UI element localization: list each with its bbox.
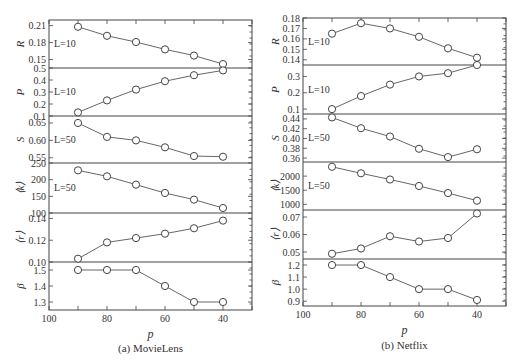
- y-tick-label: 1000: [280, 199, 300, 210]
- data-point: [444, 286, 451, 293]
- panel-4: 0.140.120.10⟨r⟩: [14, 213, 252, 268]
- y-tick-label: 0.05: [283, 247, 301, 258]
- y-tick-label: 2000: [280, 171, 300, 182]
- panel-annotation: L=10: [54, 86, 76, 97]
- data-point: [132, 234, 139, 241]
- data-point: [161, 230, 168, 237]
- data-point: [74, 109, 81, 116]
- data-point: [415, 182, 422, 189]
- data-point: [328, 250, 335, 257]
- data-point: [132, 38, 139, 45]
- data-point: [219, 67, 226, 74]
- y-tick-label: 0.65: [29, 117, 47, 128]
- panel-2: 0.650.600.55SL=50: [14, 117, 252, 163]
- y-tick-label: 0.18: [283, 13, 301, 24]
- y-tick-label: 0.12: [29, 235, 47, 246]
- data-point: [386, 176, 393, 183]
- panel-5: 1.21.11.00.9β: [269, 260, 506, 307]
- data-point: [103, 266, 110, 273]
- subplot-movielens: 100806040p(a) MovieLens0.210.180.15RL=10…: [14, 20, 252, 355]
- data-point: [161, 282, 168, 289]
- y-axis-label: β: [14, 283, 26, 290]
- x-tick-label: 80: [356, 309, 366, 320]
- data-point: [219, 204, 226, 211]
- y-axis-label: R: [269, 38, 281, 46]
- data-point: [444, 70, 451, 77]
- data-point: [357, 125, 364, 132]
- panel-annotation: L=50: [54, 134, 76, 145]
- data-point: [328, 106, 335, 113]
- y-tick-label: 0.16: [283, 33, 301, 44]
- y-axis-label: R: [14, 40, 26, 48]
- data-point: [328, 30, 335, 37]
- series-line: [78, 123, 223, 157]
- panel-5: 1.51.41.3β: [14, 265, 252, 308]
- series-line: [78, 221, 223, 259]
- y-axis-label: ⟨k⟩: [14, 181, 26, 195]
- data-point: [190, 225, 197, 232]
- data-point: [357, 170, 364, 177]
- y-axis-label: P: [269, 86, 281, 94]
- y-tick-label: 0.14: [283, 54, 301, 65]
- y-tick-label: 0.60: [29, 135, 47, 146]
- panel-0: 0.210.180.15RL=10: [14, 20, 252, 68]
- data-point: [190, 52, 197, 59]
- data-point: [444, 234, 451, 241]
- y-tick-label: 1.5: [34, 265, 47, 276]
- x-tick-label: 60: [414, 309, 424, 320]
- series-line: [332, 117, 477, 157]
- series-line: [78, 270, 223, 302]
- y-tick-label: 1.2: [288, 260, 301, 271]
- data-point: [190, 298, 197, 305]
- panel-2: 0.440.420.400.380.36SL=50: [269, 113, 506, 163]
- y-tick-label: 1.4: [34, 281, 47, 292]
- panel-4: 0.070.060.05⟨r⟩: [269, 210, 506, 258]
- data-point: [132, 266, 139, 273]
- y-tick-label: 0.07: [283, 212, 301, 223]
- data-point: [103, 173, 110, 180]
- panel-3: 250200150100⟨k⟩L=50: [14, 158, 252, 219]
- panel-1: 0.30.20.1PL=10: [269, 61, 506, 114]
- subplot-netflix: 100806040p(b) Netflix0.180.170.160.150.1…: [269, 13, 506, 353]
- data-point: [357, 245, 364, 252]
- data-point: [415, 145, 422, 152]
- panel-1: 0.50.40.30.20.1PL=10: [14, 63, 252, 122]
- y-tick-label: 1.3: [34, 297, 47, 308]
- data-point: [473, 54, 480, 61]
- y-tick-label: 0.2: [34, 99, 47, 110]
- panel-annotation: L=50: [308, 180, 330, 191]
- x-tick-label: 100: [42, 313, 57, 324]
- data-point: [219, 153, 226, 160]
- chart-figure: 100806040p(a) MovieLens0.210.180.15RL=10…: [0, 0, 518, 363]
- data-point: [161, 78, 168, 85]
- y-tick-label: 0.21: [29, 20, 47, 31]
- y-axis-label: S: [269, 135, 281, 141]
- data-point: [328, 261, 335, 268]
- panel-0: 0.180.170.160.150.14RL=10: [269, 13, 506, 66]
- series-line: [332, 214, 477, 254]
- data-point: [473, 197, 480, 204]
- y-tick-label: 0.36: [283, 153, 301, 164]
- y-tick-label: 0.9: [288, 296, 301, 307]
- series-line: [78, 170, 223, 208]
- data-point: [161, 144, 168, 151]
- x-tick-label: 80: [102, 313, 112, 324]
- data-point: [132, 137, 139, 144]
- data-point: [190, 152, 197, 159]
- panel-annotation: L=10: [54, 38, 76, 49]
- data-point: [74, 167, 81, 174]
- data-point: [357, 20, 364, 27]
- data-point: [473, 210, 480, 217]
- panel-annotation: L=10: [308, 36, 330, 47]
- data-point: [357, 92, 364, 99]
- data-point: [415, 73, 422, 80]
- y-tick-label: 0.5: [34, 63, 47, 74]
- panel-annotation: L=50: [54, 182, 76, 193]
- x-tick-label: 40: [472, 309, 482, 320]
- data-point: [444, 45, 451, 52]
- x-tick-label: 40: [218, 313, 228, 324]
- data-point: [103, 133, 110, 140]
- series-line: [332, 23, 477, 57]
- y-tick-label: 200: [31, 174, 46, 185]
- subplot-caption: (b) Netflix: [381, 339, 428, 352]
